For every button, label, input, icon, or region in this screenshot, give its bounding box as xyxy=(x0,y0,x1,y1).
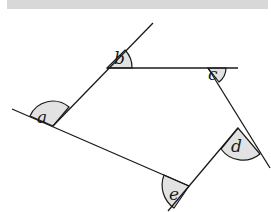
angle-b-label: b xyxy=(114,48,125,68)
side-ab-line xyxy=(53,23,153,126)
angle-d-label: d xyxy=(231,136,242,156)
angle-a-label: a xyxy=(37,107,47,127)
angle-e-label: e xyxy=(169,184,179,204)
angle-c-label: c xyxy=(208,64,218,84)
pentagon-exterior-angles-diagram: a b c d e xyxy=(0,0,271,212)
angle-a-sector xyxy=(30,101,69,126)
